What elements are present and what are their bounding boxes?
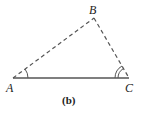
- vertex-label-a: A: [5, 81, 14, 95]
- angle-arc-c-inner: [118, 69, 124, 79]
- figure-caption: (b): [62, 94, 76, 107]
- triangle-diagram: A B C (b): [0, 0, 141, 114]
- angle-arc-a: [25, 69, 28, 78]
- vertex-label-b: B: [89, 3, 97, 17]
- edge-bc: [94, 18, 129, 78]
- vertex-label-c: C: [125, 81, 134, 95]
